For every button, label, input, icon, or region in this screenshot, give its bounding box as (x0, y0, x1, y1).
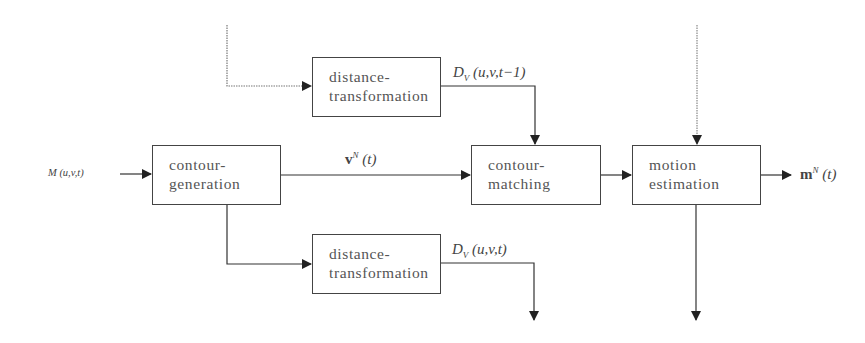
dist-curr-signal-label: DV (u,v,t) (452, 241, 507, 260)
block-label: contour- matching (488, 155, 550, 193)
feedback-line-top-left (227, 25, 311, 86)
block-label: contour- generation (169, 155, 240, 193)
contour-to-dt-bottom-line (227, 204, 311, 264)
block-label: distance- transformation (329, 67, 429, 105)
distance-transformation-top-block: distance- transformation (312, 57, 441, 117)
output-signal-label: mN (t) (800, 165, 836, 183)
dist-curr-line (440, 263, 534, 320)
block-label: motion estimation (649, 155, 720, 193)
dist-prev-line (440, 86, 535, 144)
block-label: distance- transformation (329, 244, 429, 282)
motion-estimation-block: motion estimation (632, 145, 761, 205)
contour-generation-block: contour- generation (152, 145, 281, 205)
distance-transformation-bottom-block: distance- transformation (312, 234, 441, 294)
dist-prev-signal-label: DV (u,v,t−1) (453, 64, 525, 83)
input-signal-label: M (u,v,t) (48, 167, 84, 178)
contour-signal-label: vN (t) (345, 150, 376, 168)
contour-matching-block: contour- matching (471, 145, 601, 205)
